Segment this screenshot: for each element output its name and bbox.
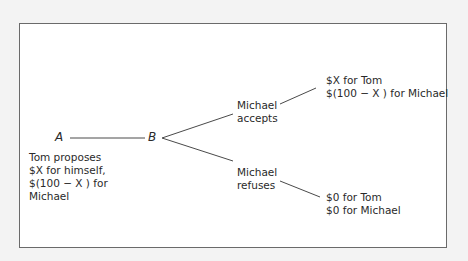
payoff-accept-line-2: $(100 − X ) for Michael <box>326 87 448 100</box>
edge-b-to-accept <box>162 114 233 138</box>
node-a-label: A <box>55 131 63 144</box>
action-accepts: Michael accepts <box>237 99 278 125</box>
payoff-refuse-line-1: $0 for Tom <box>326 191 401 204</box>
tree-edges <box>0 0 468 261</box>
action-accepts-line-1: Michael <box>237 99 278 112</box>
payoff-refuse: $0 for Tom $0 for Michael <box>326 191 401 217</box>
node-b-label: B <box>148 131 156 144</box>
action-refuses: Michael refuses <box>237 166 277 192</box>
payoff-refuse-line-2: $0 for Michael <box>326 204 401 217</box>
edge-refuse-to-payoff <box>280 181 320 197</box>
action-accepts-line-2: accepts <box>237 112 278 125</box>
proposal-line-3: $(100 − X ) for <box>29 177 108 190</box>
proposal-line-1: Tom proposes <box>29 151 108 164</box>
proposal-text: Tom proposes $X for himself, $(100 − X )… <box>29 151 108 203</box>
proposal-line-4: Michael <box>29 190 108 203</box>
payoff-accept: $X for Tom $(100 − X ) for Michael <box>326 74 448 100</box>
edge-b-to-refuse <box>162 138 233 161</box>
proposal-line-2: $X for himself, <box>29 164 108 177</box>
edge-accept-to-payoff <box>280 88 316 104</box>
action-refuses-line-2: refuses <box>237 179 277 192</box>
payoff-accept-line-1: $X for Tom <box>326 74 448 87</box>
action-refuses-line-1: Michael <box>237 166 277 179</box>
